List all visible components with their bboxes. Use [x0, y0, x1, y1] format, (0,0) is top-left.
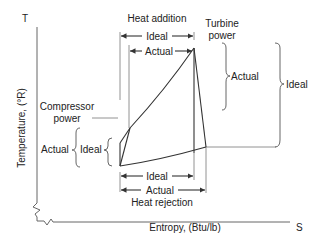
bottom-actual-label: Actual — [146, 185, 174, 196]
top-ideal-label: Ideal — [146, 31, 168, 42]
compressor-ideal-brace — [104, 138, 112, 166]
guide-lines — [92, 32, 276, 193]
turbine-heading-2: power — [208, 30, 236, 41]
compressor-heading-1: Compressor — [40, 101, 95, 112]
turbine-ideal-brace — [275, 43, 284, 147]
y-axis-symbol: T — [22, 13, 28, 24]
turbine-actual-label: Actual — [231, 71, 259, 82]
heat-rejection-curve — [120, 147, 206, 166]
cycle — [120, 48, 206, 166]
y-axis — [33, 27, 145, 225]
heat-addition-heading: Heat addition — [128, 13, 187, 24]
turbine-ideal-label: Ideal — [286, 79, 308, 90]
compressor-ideal-label: Ideal — [80, 144, 102, 155]
y-axis-label: Temperature, (°R) — [16, 88, 27, 168]
turbine-actual-brace — [222, 43, 230, 110]
compressor-actual-brace — [72, 128, 80, 167]
actual-compression-line — [120, 128, 130, 166]
x-axis-symbol: S — [296, 222, 303, 233]
compressor-heading-2: power — [53, 113, 81, 124]
turbine-heading-1: Turbine — [205, 18, 239, 29]
heat-addition-curve — [130, 48, 194, 128]
compressor-actual-label: Actual — [41, 144, 69, 155]
heat-rejection-heading: Heat rejection — [131, 197, 193, 208]
bottom-ideal-label: Ideal — [146, 171, 168, 182]
top-actual-label: Actual — [145, 46, 173, 57]
actual-expansion-line — [194, 48, 206, 147]
brayton-ts-diagram: T Temperature, (°R) S Entropy, (Btu/lb) … — [0, 0, 317, 240]
x-axis-label: Entropy, (Btu/lb) — [149, 222, 221, 233]
